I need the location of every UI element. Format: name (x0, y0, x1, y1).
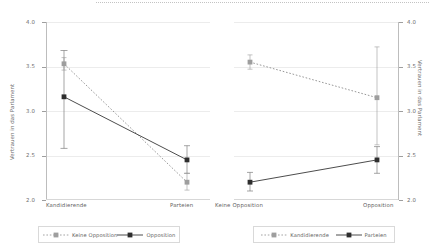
y-tick-right-3.0 (399, 111, 403, 112)
legend-label-2-left: Opposition (146, 232, 175, 238)
legend-label-1-right: Kandidierende (290, 232, 329, 238)
y-tick-label-left-2.5: 2.5 (26, 152, 35, 158)
y-tick-label-right-2.0: 2.0 (407, 197, 416, 203)
y-tick-label-left-4.0: 4.0 (26, 19, 35, 25)
chart-figure: Vertrauen in das Parlament 4.0 3.5 3.0 2… (0, 0, 431, 248)
y-tick-label-right-4.0: 4.0 (407, 19, 416, 25)
marker-opposition-kandidierende (62, 94, 67, 99)
legend-item-kandidierende: Kandidierende (261, 231, 329, 239)
panel-right: Vertrauen in das Parlament 4.0 3.5 3.0 2… (215, 0, 431, 248)
legend-left: Keine Opposition Opposition (38, 226, 180, 243)
line-keine-opposition (64, 64, 187, 182)
x-category-right-2: Opposition (363, 202, 394, 208)
legend-label-2-right: Parteien (365, 232, 387, 238)
legend-key-solid-diamond-icon (336, 231, 362, 239)
series-group-right (234, 22, 398, 200)
y-tick-right-4.0 (399, 22, 403, 23)
legend-key-solid-diamond-icon (117, 231, 143, 239)
y-axis-line-right (398, 22, 399, 200)
x-category-left-1: Kandidierende (46, 202, 87, 208)
y-tick-right-2.5 (399, 156, 403, 157)
legend-right: Kandidierende Parteien (253, 226, 395, 243)
y-tick-label-left-3.5: 3.5 (26, 63, 35, 69)
legend-key-dashed-square-icon (43, 231, 69, 239)
y-tick-label-left-3.0: 3.0 (26, 108, 35, 114)
panel-left: Vertrauen in das Parlament 4.0 3.5 3.0 2… (0, 0, 216, 248)
y-tick-label-right-3.5: 3.5 (407, 63, 416, 69)
y-tick-left-2.0 (42, 200, 46, 201)
marker-parteien-keine-opposition (248, 180, 253, 185)
series-group-left (46, 22, 210, 200)
legend-label-1-left: Keine Opposition (72, 232, 117, 238)
y-tick-right-2.0 (399, 200, 403, 201)
marker-parteien-opposition (375, 158, 380, 163)
line-kandidierende (250, 62, 377, 98)
y-tick-label-right-3.0: 3.0 (407, 108, 416, 114)
y-tick-label-left-2.0: 2.0 (26, 197, 35, 203)
marker-keine-opposition-kandidierende (62, 61, 67, 66)
plot-area-right (234, 22, 398, 200)
line-parteien (250, 160, 377, 182)
y-axis-label-left: Vertrauen in das Parlament (9, 84, 15, 160)
marker-opposition-parteien (185, 158, 190, 163)
y-axis-label-right: Vertrauen in das Parlament (417, 60, 423, 136)
marker-kandidierende-keine-opposition (248, 60, 253, 65)
y-tick-right-3.5 (399, 67, 403, 68)
marker-keine-opposition-parteien (185, 180, 190, 185)
legend-item-opposition: Opposition (117, 231, 175, 239)
plot-area-left (46, 22, 210, 200)
x-category-left-2: Parteien (170, 202, 193, 208)
line-opposition (64, 97, 187, 160)
x-category-right-1: Keine Opposition (215, 202, 263, 208)
marker-kandidierende-opposition (375, 95, 380, 100)
legend-key-dashed-square-icon (261, 231, 287, 239)
legend-item-parteien: Parteien (336, 231, 387, 239)
legend-item-keine-opposition: Keine Opposition (43, 231, 117, 239)
y-tick-label-right-2.5: 2.5 (407, 152, 416, 158)
